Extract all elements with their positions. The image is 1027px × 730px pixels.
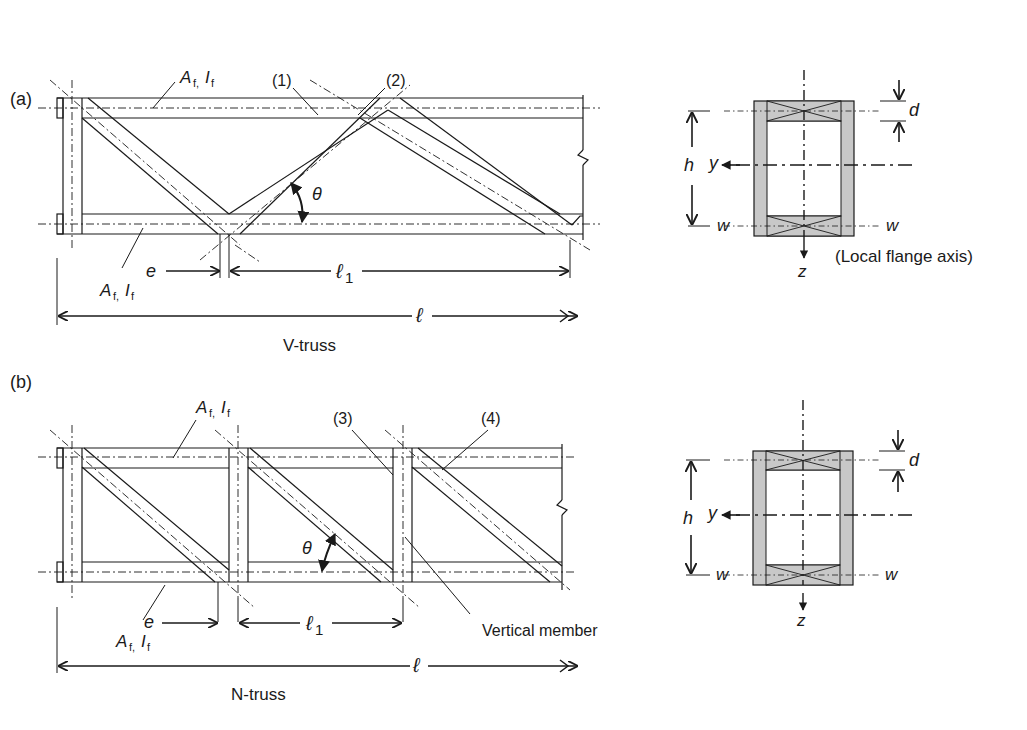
svg-text:f,: f, [193, 77, 199, 89]
truss-diagram-figure: (a) [0, 0, 1027, 730]
svg-text:A: A [195, 398, 207, 417]
panel-b-tag: (b) [10, 372, 32, 392]
v-truss-bottom-flange-label: A f, I f [99, 281, 135, 302]
svg-text:f: f [147, 641, 151, 653]
v-truss-top-flange-label: A f, I f [179, 68, 215, 89]
v-truss-structure [57, 95, 588, 240]
section-b-y-label: y [706, 503, 718, 523]
section-a-z-label: z [797, 262, 807, 281]
member-label-2: (2) [386, 72, 406, 89]
section-a-w-right-label: w [886, 216, 900, 235]
panel-a-tag: (a) [10, 89, 32, 109]
svg-text:A: A [115, 632, 127, 651]
svg-text:I: I [141, 632, 146, 651]
n-truss-structure [57, 444, 567, 590]
angle-theta-label: θ [302, 538, 312, 558]
svg-text:1: 1 [345, 269, 353, 286]
dim-l-label: ℓ [412, 654, 421, 676]
section-b-w-right-label: w [885, 565, 899, 584]
section-a-note: (Local flange axis) [835, 247, 973, 266]
svg-text:1: 1 [315, 621, 323, 638]
dim-e-label: e [144, 612, 154, 632]
dim-l-label: ℓ [415, 304, 424, 326]
angle-theta-label: θ [312, 184, 322, 204]
svg-text:f: f [227, 407, 231, 419]
svg-text:I: I [205, 68, 210, 87]
svg-text:I: I [221, 398, 226, 417]
member-label-1: (1) [272, 72, 292, 89]
svg-text:A: A [179, 68, 191, 87]
section-b-h-label: h [683, 508, 693, 528]
section-a-d-label: d [909, 100, 920, 120]
section-a-h-label: h [684, 155, 694, 175]
n-truss-top-flange-label: A f, I f [195, 398, 231, 419]
dim-e-label: e [146, 261, 156, 281]
svg-text:f,: f, [129, 641, 135, 653]
angle-theta-arc-icon [291, 183, 303, 222]
svg-text:f: f [131, 290, 135, 302]
v-truss-centerlines [38, 80, 600, 262]
panel-a-v-truss: (a) [10, 68, 973, 355]
v-truss-caption: V-truss [283, 336, 336, 355]
section-a-y-label: y [707, 153, 719, 173]
svg-text:f: f [211, 77, 215, 89]
n-truss-centerlines [38, 425, 575, 608]
member-label-4: (4) [481, 410, 501, 427]
section-b-d-label: d [909, 450, 920, 470]
dim-l1-label: ℓ [335, 260, 344, 282]
svg-text:f,: f, [209, 407, 215, 419]
dim-l1-label: ℓ [305, 612, 314, 634]
angle-theta-arc-icon [322, 534, 335, 571]
n-truss-bottom-flange-label: A f, I f [115, 632, 151, 653]
svg-text:f,: f, [113, 290, 119, 302]
vertical-member-label: Vertical member [482, 622, 598, 639]
section-b-w-left-label: w [716, 565, 730, 584]
n-truss-caption: N-truss [231, 685, 286, 704]
section-b-z-label: z [796, 611, 806, 630]
member-label-3: (3) [333, 410, 353, 427]
panel-b-n-truss: (b) [10, 372, 920, 704]
section-a-w-left-label: w [717, 216, 731, 235]
svg-text:I: I [125, 281, 130, 300]
svg-text:A: A [99, 281, 111, 300]
